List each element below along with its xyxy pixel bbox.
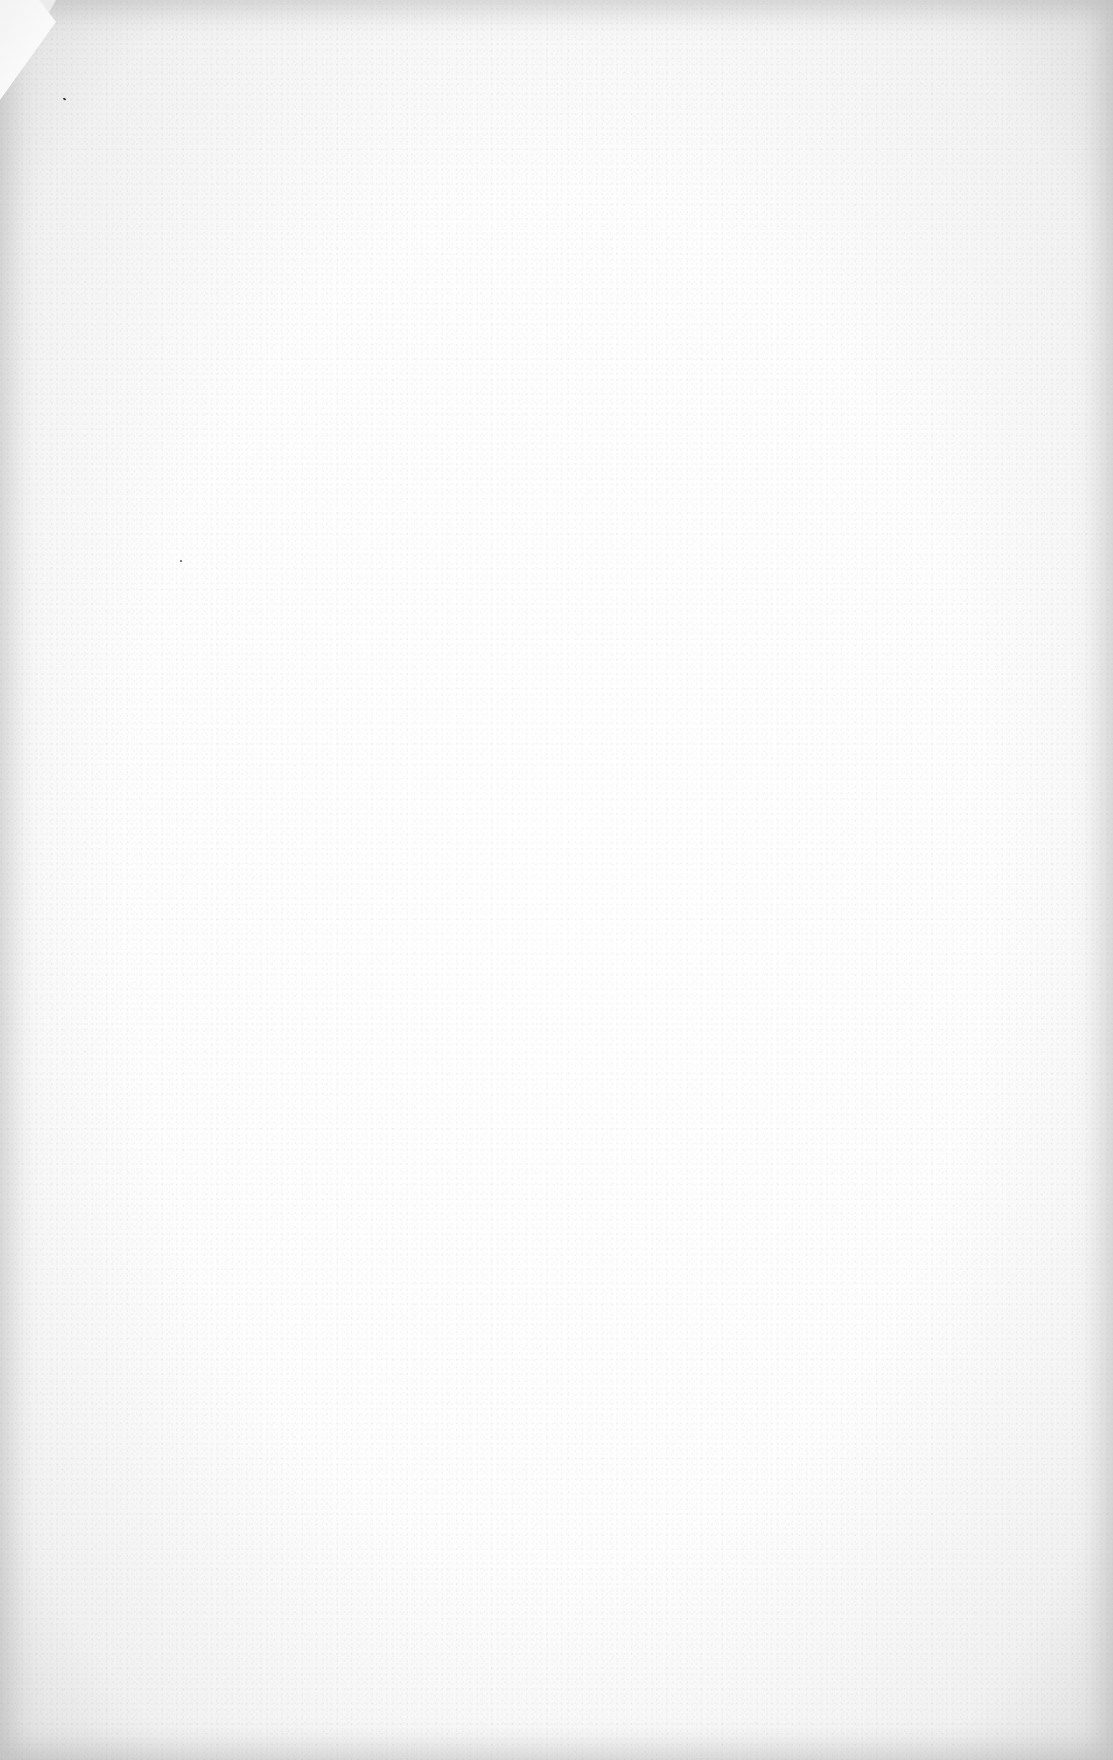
dust-speck: [63, 97, 67, 100]
paper-grain-texture: [0, 0, 1113, 1760]
dust-speck: [180, 560, 182, 562]
scan-edge-shadow: [0, 0, 1113, 1760]
blank-paper-page: [0, 0, 1113, 1760]
